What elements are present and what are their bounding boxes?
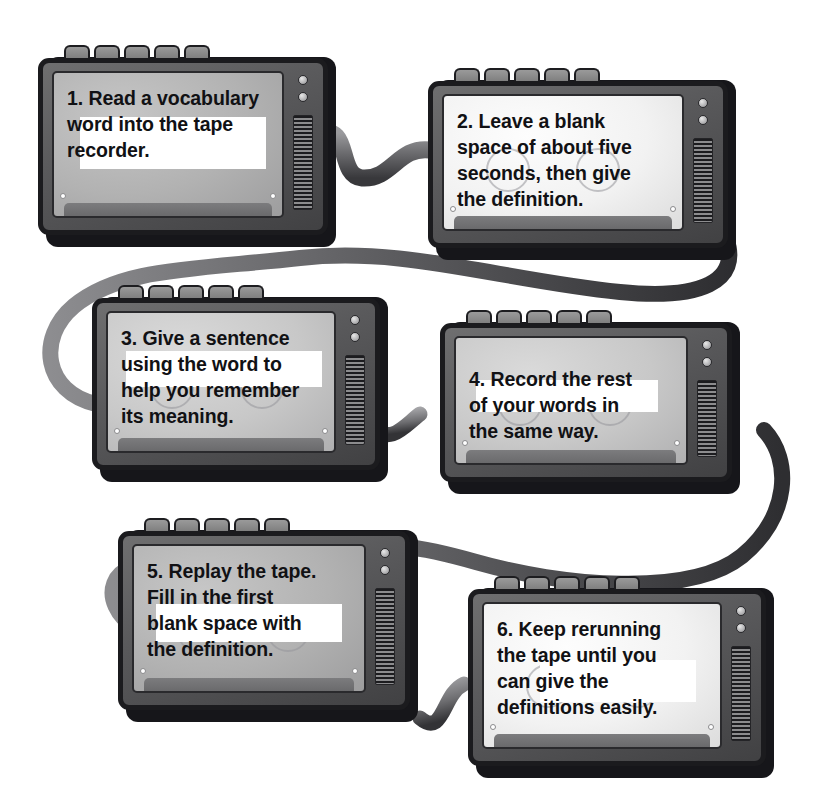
step-line: its meaning.: [121, 405, 234, 427]
device-screen: 1. Read a vocabulary word into the tape …: [52, 71, 284, 218]
device-screen: 4. Record the rest of your words in the …: [454, 336, 688, 465]
step-line: Give a sentence: [142, 327, 289, 349]
device-shelf: [494, 734, 710, 747]
step-line: word into the tape: [67, 113, 233, 135]
step-line: of your words in: [469, 394, 619, 416]
knob-icon[interactable]: [380, 565, 390, 575]
speaker-grille-icon: [697, 380, 717, 457]
device-shelf: [454, 216, 672, 229]
step-line: Fill in the first: [147, 586, 273, 608]
device-screen: 6. Keep rerunning the tape until you can…: [482, 602, 722, 749]
device-shelf: [144, 678, 354, 691]
device-screen: 5. Replay the tape. Fill in the first bl…: [132, 544, 366, 693]
device-chassis: 4. Record the rest of your words in the …: [440, 323, 732, 482]
knob-icon[interactable]: [698, 98, 708, 108]
step-line: definitions easily.: [497, 696, 657, 718]
tape-ribbon-5-6: [420, 684, 464, 723]
step-line: the definition.: [147, 638, 273, 660]
knob-icon[interactable]: [380, 548, 390, 558]
device-shelf: [64, 203, 272, 216]
step-line: Read a vocabulary: [88, 87, 259, 109]
step-number: 3.: [121, 327, 137, 349]
speaker-grille-icon: [731, 646, 751, 741]
step-text: 6. Keep rerunning the tape until you can…: [497, 616, 710, 720]
device-screen: 2. Leave a blank space of about five sec…: [442, 94, 684, 231]
step-number: 4.: [469, 368, 485, 390]
step-number: 2.: [457, 110, 473, 132]
step-line: the tape until you: [497, 644, 657, 666]
device-screen: 3. Give a sentence using the word to hel…: [106, 311, 336, 453]
step-line: recorder.: [67, 139, 150, 161]
step-number: 6.: [497, 618, 513, 640]
knob-icon[interactable]: [350, 315, 360, 325]
screw-icon: [708, 724, 714, 730]
step-text: 4. Record the rest of your words in the …: [469, 350, 676, 444]
device-chassis: 1. Read a vocabulary word into the tape …: [38, 58, 328, 235]
step-line: can give the: [497, 670, 609, 692]
screw-icon: [140, 668, 146, 674]
device-control-rail[interactable]: [728, 602, 754, 749]
knob-icon[interactable]: [736, 623, 746, 633]
device-chassis: 6. Keep rerunning the tape until you can…: [468, 589, 766, 766]
screw-icon: [462, 440, 468, 446]
step-line: the definition.: [457, 188, 583, 210]
step-line: the same way.: [469, 420, 599, 442]
step-line: Leave a blank: [478, 110, 605, 132]
device-shelf: [466, 450, 676, 463]
tape-recorder-step-6[interactable]: 6. Keep rerunning the tape until you can…: [468, 576, 766, 766]
tape-recorder-step-4[interactable]: 4. Record the rest of your words in the …: [440, 310, 732, 482]
knob-icon[interactable]: [736, 606, 746, 616]
step-text: 2. Leave a blank space of about five sec…: [457, 108, 672, 212]
diagram-canvas: 1. Read a vocabulary word into the tape …: [0, 0, 817, 800]
step-text: 1. Read a vocabulary word into the tape …: [67, 85, 272, 163]
screw-icon: [352, 668, 358, 674]
knob-icon[interactable]: [702, 357, 712, 367]
knob-icon[interactable]: [698, 115, 708, 125]
step-line: Keep rerunning: [518, 618, 661, 640]
screw-icon: [114, 428, 120, 434]
screw-icon: [490, 724, 496, 730]
tape-recorder-step-5[interactable]: 5. Replay the tape. Fill in the first bl…: [118, 518, 410, 710]
step-number: 5.: [147, 560, 163, 582]
knob-icon[interactable]: [702, 340, 712, 350]
step-line: space of about five: [457, 136, 632, 158]
speaker-grille-icon: [375, 588, 395, 685]
step-line: Record the rest: [490, 368, 632, 390]
step-line: using the word to: [121, 353, 282, 375]
tape-recorder-step-2[interactable]: 2. Leave a blank space of about five sec…: [428, 68, 728, 248]
tape-recorder-step-3[interactable]: 3. Give a sentence using the word to hel…: [92, 285, 380, 470]
step-text: 3. Give a sentence using the word to hel…: [121, 325, 324, 429]
device-control-rail[interactable]: [690, 94, 716, 231]
device-chassis: 3. Give a sentence using the word to hel…: [92, 298, 380, 470]
screw-icon: [450, 206, 456, 212]
screw-icon: [270, 193, 276, 199]
knob-icon[interactable]: [350, 332, 360, 342]
device-control-rail[interactable]: [342, 311, 368, 453]
device-control-rail[interactable]: [694, 336, 720, 465]
speaker-grille-icon: [293, 115, 313, 210]
knob-icon[interactable]: [298, 92, 308, 102]
device-chassis: 2. Leave a blank space of about five sec…: [428, 81, 728, 248]
tape-recorder-step-1[interactable]: 1. Read a vocabulary word into the tape …: [38, 45, 328, 235]
screw-icon: [60, 193, 66, 199]
step-line: blank space with: [147, 612, 301, 634]
speaker-grille-icon: [345, 355, 365, 445]
step-line: help you remember: [121, 379, 299, 401]
speaker-grille-icon: [693, 138, 713, 223]
step-text: 5. Replay the tape. Fill in the first bl…: [147, 558, 354, 662]
device-chassis: 5. Replay the tape. Fill in the first bl…: [118, 531, 410, 710]
step-line: Replay the tape.: [168, 560, 316, 582]
knob-icon[interactable]: [298, 75, 308, 85]
step-number: 1.: [67, 87, 83, 109]
device-control-rail[interactable]: [372, 544, 398, 693]
device-shelf: [118, 438, 324, 451]
step-line: seconds, then give: [457, 162, 631, 184]
device-control-rail[interactable]: [290, 71, 316, 218]
